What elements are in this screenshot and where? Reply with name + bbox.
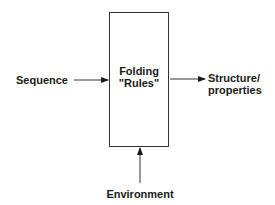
- output-label-line1: Structure/: [208, 72, 262, 84]
- output-label-line2: properties: [208, 84, 262, 96]
- sequence-label: Sequence: [16, 74, 68, 86]
- structure-properties-label: Structure/ properties: [208, 72, 262, 96]
- folding-label-line1: Folding: [109, 65, 169, 77]
- arrows: [0, 0, 275, 205]
- folding-rules-label: Folding "Rules": [109, 65, 169, 89]
- folding-label-line2: "Rules": [109, 77, 169, 89]
- environment-label: Environment: [100, 188, 180, 200]
